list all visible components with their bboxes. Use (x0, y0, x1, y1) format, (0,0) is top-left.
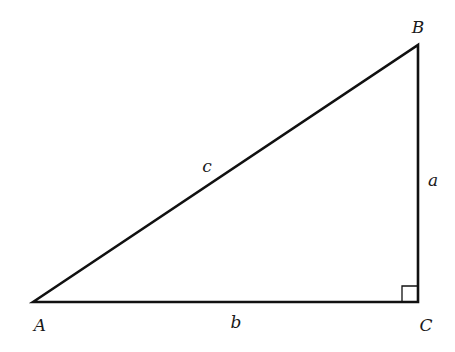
vertex-label-a: A (32, 315, 46, 335)
vertex-label-c: C (419, 315, 432, 335)
vertex-label-b: B (411, 17, 425, 37)
side-label-b: b (231, 312, 242, 332)
triangle-diagram: A B C a b c (0, 0, 455, 352)
side-label-a: a (428, 170, 438, 190)
right-angle-marker (402, 286, 418, 302)
triangle-abc (33, 45, 418, 302)
side-label-c: c (202, 156, 212, 176)
